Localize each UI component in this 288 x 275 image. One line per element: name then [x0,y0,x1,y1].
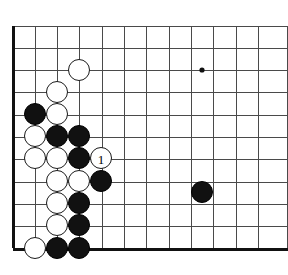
stone-black-b-d7[interactable] [68,147,90,169]
stone-black-b-d11[interactable] [68,237,90,259]
stone-white-w-c10[interactable] [46,214,68,236]
stone-white-w-c9[interactable] [46,192,68,214]
stone-black-b-d9[interactable] [68,192,90,214]
stone-white-w-c4[interactable] [46,81,68,103]
stone-white-w-b7[interactable] [24,147,46,169]
stone-white-w-c8[interactable] [46,170,68,192]
stone-white-w-d8[interactable] [68,170,90,192]
stone-black-b-d10[interactable] [68,214,90,236]
stone-black-b-c6[interactable] [46,125,68,147]
move-number-label: 1 [91,153,111,166]
stone-white-w-c5[interactable] [46,103,68,125]
stone-white-w-b11[interactable] [24,237,46,259]
stone-white-w-d3[interactable] [68,59,90,81]
stone-white-w-b6[interactable] [24,125,46,147]
stone-black-b-d6[interactable] [68,125,90,147]
stone-white-w-e7[interactable]: 1 [90,147,112,169]
stone-black-b-e8[interactable] [90,170,112,192]
stone-black-b-c11[interactable] [46,237,68,259]
go-board-diagram: 1 [0,0,288,275]
stone-black-b-b5[interactable] [24,103,46,125]
stone-white-w-c7[interactable] [46,147,68,169]
star-point-upper-right-icon [199,67,204,72]
stone-black-b-j9[interactable] [191,181,213,203]
